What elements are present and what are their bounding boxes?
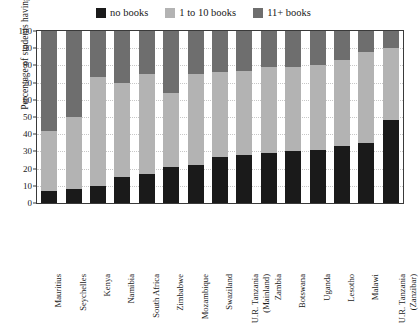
bar-u-r-tanzania-mainland [236,31,252,203]
x-axis-label: Malawi [370,274,382,327]
bar-segment [310,31,326,65]
y-axis-tick-label: 60 [23,95,32,104]
bar-segment [383,120,399,203]
bar-segment [236,31,252,71]
bar-segment [358,52,374,143]
bar-segment [383,31,399,48]
plot-area [36,30,404,204]
legend-item-1-to-10-books: 1 to 10 books [165,8,236,18]
bar-series-group [37,31,403,203]
y-axis-tick-label: 20 [23,164,32,173]
bar-segment [90,186,106,203]
bar-segment [236,71,252,155]
legend-item-no-books: no books [96,8,148,18]
x-axis-label: Lesotho [346,274,358,327]
bar-segment [163,167,179,203]
y-axis-tick-label: 40 [23,130,32,139]
bar-segment [261,153,277,203]
x-axis-label: Mauritius [53,274,65,327]
bar-segment [358,31,374,52]
bar-segment [114,83,130,178]
bar-segment [285,67,301,151]
y-axis-tick-label: 50 [23,113,32,122]
bar-segment [41,31,57,131]
bar-segment [334,146,350,203]
bar-segment [139,74,155,174]
y-axis-ticks: 0102030405060708090100 [0,30,36,204]
bar-segment [285,151,301,203]
bar-kenya [90,31,106,203]
bar-namibia [114,31,130,203]
x-axis-label: Botswana [297,274,309,327]
bar-segment [212,72,228,156]
x-axis-category-labels: MauritiusSeychellesKenyaNamibiaSouth Afr… [36,206,404,278]
bar-segment [163,31,179,93]
bar-segment [66,31,82,117]
bar-segment [212,31,228,72]
x-axis-label: Seychelles [78,274,90,327]
bar-segment [236,155,252,203]
y-axis-tick-label: 90 [23,44,32,53]
legend-swatch-no-books [96,8,106,18]
bar-segment [114,177,130,203]
bar-segment [261,31,277,67]
bar-swaziland [212,31,228,203]
bar-segment [114,31,130,83]
bar-segment [334,31,350,60]
x-axis-label: Swaziland [224,274,236,327]
bar-segment [41,191,57,203]
bar-segment [66,189,82,203]
bar-zimbabwe [163,31,179,203]
x-axis-label: Zambia [273,274,285,327]
bar-segment [334,60,350,146]
y-axis-tick-label: 0 [28,199,33,208]
legend-label-11-plus-books: 11+ books [267,8,311,18]
legend-swatch-11-plus-books [253,8,263,18]
bar-segment [212,157,228,203]
x-axis-label: Mozambique [200,274,212,327]
y-axis-tick-label: 70 [23,78,32,87]
bar-segment [188,31,204,74]
bar-botswana [285,31,301,203]
y-axis-tick-label: 10 [23,181,32,190]
bar-segment [310,65,326,149]
bar-segment [358,143,374,203]
bar-segment [41,131,57,191]
x-axis-label: South Africa [151,274,163,327]
y-axis-tick-label: 100 [19,27,33,36]
x-axis-label: U.R. Tanzania(Mainland) [250,274,272,327]
bar-segment [90,77,106,185]
y-axis-tick-label: 30 [23,147,32,156]
chart-legend: no books 1 to 10 books 11+ books [0,5,407,21]
legend-swatch-1-to-10-books [165,8,175,18]
bar-segment [139,174,155,203]
bar-seychelles [66,31,82,203]
legend-item-11-plus-books: 11+ books [253,8,311,18]
legend-label-1-to-10-books: 1 to 10 books [179,8,236,18]
bar-mozambique [188,31,204,203]
bar-segment [188,74,204,165]
bar-south-africa [139,31,155,203]
x-axis-label: Zimbabwe [175,274,187,327]
bar-segment [139,31,155,74]
x-axis-label: Namibia [126,274,138,327]
bar-u-r-tanzania-zanzibar [383,31,399,203]
bar-segment [163,93,179,167]
x-axis-label: U.R. Tanzania(Zanzibar) [397,274,419,327]
bar-segment [66,117,82,189]
bar-uganda [310,31,326,203]
bar-segment [261,67,277,153]
bar-segment [310,150,326,203]
bar-zambia [261,31,277,203]
legend-label-no-books: no books [110,8,148,18]
bar-lesotho [334,31,350,203]
bar-segment [188,165,204,203]
bar-malawi [358,31,374,203]
bar-segment [383,48,399,120]
y-axis-tick-label: 80 [23,61,32,70]
x-axis-label: Kenya [102,274,114,327]
x-axis-label: Uganda [322,274,334,327]
bar-segment [285,31,301,67]
bar-segment [90,31,106,77]
